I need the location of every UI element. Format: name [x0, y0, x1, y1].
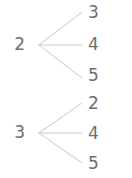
child-node-bottom-3: 5: [88, 155, 102, 172]
parent-node-top: 2: [13, 36, 25, 53]
branch-group-bottom: [39, 103, 82, 163]
child-node-top-1: 3: [88, 4, 102, 21]
child-node-bottom-2: 4: [88, 125, 102, 142]
branch-line-top-3: [39, 45, 82, 78]
branch-line-bottom-1: [39, 103, 82, 133]
child-node-top-2: 4: [88, 36, 102, 53]
child-node-bottom-1: 2: [88, 95, 102, 112]
branching-diagram-canvas: 2 3 4 5 3 2 4 5: [0, 0, 132, 178]
branch-line-bottom-3: [39, 133, 82, 163]
child-node-top-3: 5: [88, 67, 102, 84]
branch-line-top-1: [39, 12, 82, 45]
branch-lines: [0, 0, 132, 178]
branch-group-top: [39, 12, 82, 78]
parent-node-bottom: 3: [13, 124, 25, 141]
